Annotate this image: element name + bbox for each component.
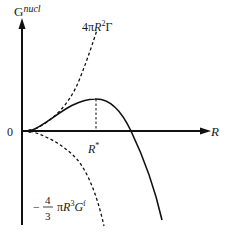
x-axis-label: R — [210, 124, 219, 139]
origin-label: 0 — [7, 125, 13, 139]
svg-text:−: − — [33, 200, 40, 214]
x-axis-arrow-icon — [200, 128, 211, 135]
svg-text:3: 3 — [45, 210, 51, 222]
y-axis-label: Gnucl — [14, 3, 41, 19]
svg-text:4: 4 — [45, 194, 51, 206]
nucleation-energy-diagram: Gnucl 0 R R* 4πR2Γ − 4 3 πR3Gf — [0, 0, 228, 235]
volume-term-label: − 4 3 πR3Gf — [33, 194, 86, 222]
surface-term-label: 4πR2Γ — [82, 19, 112, 34]
y-axis-arrow-icon — [19, 18, 26, 29]
surface-energy-curve — [30, 30, 97, 131]
critical-radius-label: R* — [87, 141, 99, 156]
svg-text:πR3Gf: πR3Gf — [57, 199, 86, 214]
